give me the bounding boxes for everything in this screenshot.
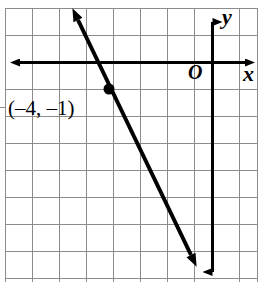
- grid-horizontal-lines: [5, 9, 257, 279]
- y-axis-label: y: [222, 6, 232, 28]
- coordinate-graph-figure: y x O (–4, –1): [0, 0, 261, 291]
- x-axis-label: x: [243, 63, 254, 85]
- plotted-line: [78, 20, 191, 255]
- point-coordinate-label: (–4, –1): [8, 98, 75, 119]
- grid-vertical-lines: [6, 8, 258, 282]
- coordinate-plane: [0, 0, 261, 291]
- origin-label: O: [188, 62, 202, 82]
- plotted-point-marker: [104, 84, 115, 95]
